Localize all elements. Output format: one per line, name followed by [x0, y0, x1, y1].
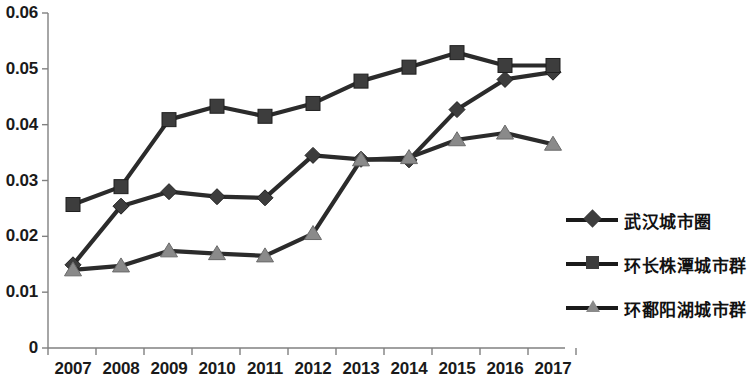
legend-label-1: 环长株潭城市群 [618, 252, 747, 277]
data-point [162, 113, 176, 127]
legend-item-1: 环长株潭城市群 [566, 242, 752, 286]
series-0 [65, 64, 561, 273]
data-point [306, 96, 320, 110]
chart-legend: 武汉城市圈 环长株潭城市群 环鄱阳湖城市群 [566, 198, 752, 330]
legend-key-1 [566, 254, 618, 274]
data-point [258, 109, 272, 123]
legend-label-2: 环鄱阳湖城市群 [618, 296, 747, 321]
data-point [114, 180, 128, 194]
y-tick-label: 0.01 [0, 282, 38, 302]
data-point [402, 60, 416, 74]
legend-item-0: 武汉城市圈 [566, 198, 752, 242]
x-tick-label: 2017 [523, 359, 583, 379]
series-1 [66, 46, 560, 212]
y-tick-label: 0.03 [0, 171, 38, 191]
legend-item-2: 环鄱阳湖城市群 [566, 286, 752, 330]
data-point [209, 189, 225, 205]
y-tick-label: 0 [0, 338, 38, 358]
data-point [66, 198, 80, 212]
chart-series-group [65, 46, 562, 276]
data-point [450, 46, 464, 60]
triangle-marker-icon [586, 300, 600, 312]
y-tick-label: 0.06 [0, 3, 38, 23]
legend-key-2 [566, 298, 618, 318]
square-marker-icon [586, 256, 599, 269]
legend-label-0: 武汉城市圈 [618, 208, 712, 233]
data-point [354, 74, 368, 88]
y-tick-label: 0.04 [0, 115, 38, 135]
data-point [546, 58, 560, 72]
y-tick-label: 0.02 [0, 226, 38, 246]
diamond-marker-icon [583, 209, 601, 227]
line-chart: 00.010.020.030.040.050.06 20072008200920… [0, 0, 754, 388]
y-tick-label: 0.05 [0, 59, 38, 79]
legend-key-0 [566, 210, 618, 230]
data-point [161, 184, 177, 200]
data-point [210, 99, 224, 113]
data-point [498, 58, 512, 72]
